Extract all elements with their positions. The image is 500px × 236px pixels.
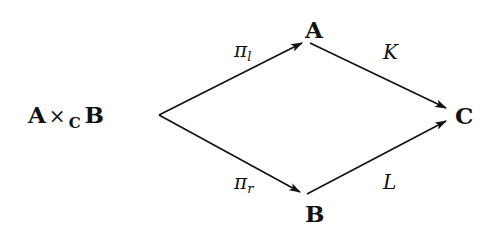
commutative-diagram: A×CB A B C πl πr K L bbox=[0, 0, 500, 236]
node-product: A×CB bbox=[28, 103, 104, 126]
node-B: B bbox=[305, 202, 324, 225]
node-C: C bbox=[455, 104, 473, 127]
label-pi-l-sub: l bbox=[247, 49, 251, 64]
node-product-subscript: C bbox=[69, 114, 81, 132]
times-symbol: × bbox=[49, 104, 66, 128]
label-K: K bbox=[383, 42, 398, 62]
node-product-right: B bbox=[85, 101, 104, 128]
node-product-left: A bbox=[28, 101, 46, 128]
arrow-pi-r bbox=[159, 115, 300, 192]
label-L: L bbox=[383, 172, 396, 192]
label-pi-r: πr bbox=[234, 172, 253, 192]
arrow-K bbox=[310, 43, 446, 108]
node-A: A bbox=[305, 18, 323, 41]
label-pi-r-sub: r bbox=[247, 181, 253, 196]
label-pi-l-base: π bbox=[234, 38, 247, 62]
arrow-L bbox=[307, 121, 446, 194]
arrow-pi-l bbox=[159, 43, 302, 115]
label-pi-r-base: π bbox=[234, 170, 247, 194]
label-pi-l: πl bbox=[234, 40, 251, 60]
